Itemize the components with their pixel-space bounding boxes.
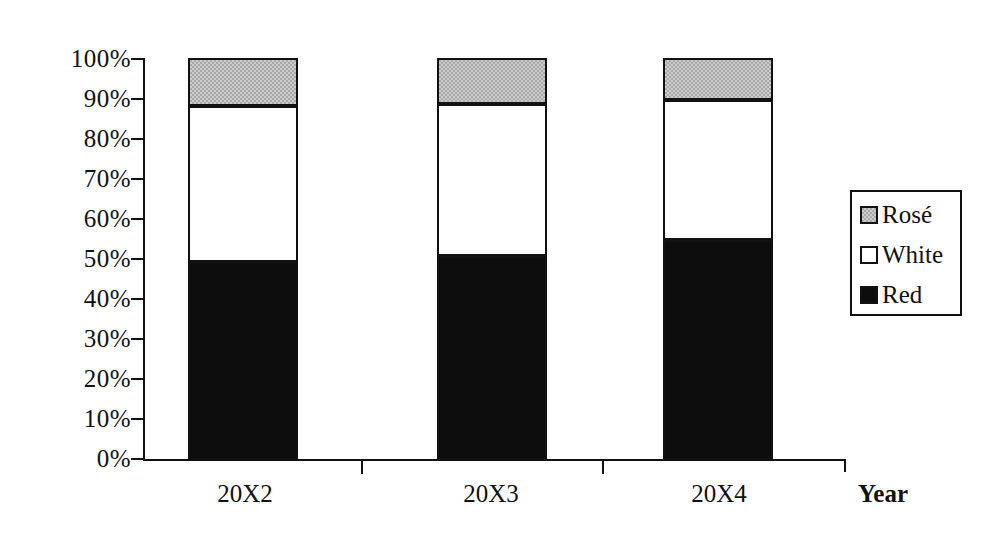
legend-label-red: Red — [882, 282, 922, 307]
y-tick-40 — [131, 298, 143, 300]
y-tick-0 — [131, 458, 143, 460]
x-axis-title: Year — [858, 480, 908, 508]
bar-20X4-segment-red[interactable] — [663, 240, 773, 460]
legend-swatch-white-icon — [860, 246, 878, 264]
y-tick-label-100: 100% — [45, 46, 131, 71]
bar-20X3-segment-red[interactable] — [437, 256, 547, 460]
y-tick-90 — [131, 98, 143, 100]
bar-20X4-segment-rose[interactable] — [663, 58, 773, 100]
chart-legend: Rosé White Red — [850, 190, 962, 316]
y-tick-label-50: 50% — [45, 246, 131, 271]
y-tick-50 — [131, 258, 143, 260]
bar-20X3-segment-white[interactable] — [437, 104, 547, 256]
x-axis-right-cap — [844, 459, 846, 472]
legend-label-white: White — [882, 242, 943, 267]
y-tick-label-10: 10% — [45, 406, 131, 431]
bar-20X2-segment-rose[interactable] — [188, 58, 298, 106]
legend-item-red[interactable]: Red — [860, 282, 922, 307]
x-tick-1 — [361, 461, 363, 474]
y-tick-label-20: 20% — [45, 366, 131, 391]
y-tick-30 — [131, 338, 143, 340]
stacked-bar-chart: 100% 90% 80% 70% 60% 50% 40% 30% 20% 10%… — [0, 0, 1008, 533]
y-tick-label-60: 60% — [45, 206, 131, 231]
y-tick-label-80: 80% — [45, 126, 131, 151]
bar-20X2-segment-red[interactable] — [188, 262, 298, 460]
x-tick-2 — [602, 461, 604, 474]
bar-20X2-segment-white[interactable] — [188, 106, 298, 262]
x-tick-label-20X2: 20X2 — [155, 480, 335, 508]
y-tick-60 — [131, 218, 143, 220]
y-tick-label-30: 30% — [45, 326, 131, 351]
y-tick-label-70: 70% — [45, 166, 131, 191]
y-tick-20 — [131, 378, 143, 380]
legend-swatch-red-icon — [860, 286, 878, 304]
legend-item-rose[interactable]: Rosé — [860, 202, 932, 227]
y-axis-labels: 100% 90% 80% 70% 60% 50% 40% 30% 20% 10%… — [33, 0, 131, 533]
y-tick-label-90: 90% — [45, 86, 131, 111]
plot-area — [143, 58, 845, 460]
legend-item-white[interactable]: White — [860, 242, 943, 267]
legend-swatch-rose-icon — [860, 206, 878, 224]
legend-label-rose: Rosé — [882, 202, 932, 227]
y-tick-label-40: 40% — [45, 286, 131, 311]
y-tick-80 — [131, 138, 143, 140]
y-tick-10 — [131, 418, 143, 420]
bar-20X3-segment-rose[interactable] — [437, 58, 547, 104]
x-tick-label-20X3: 20X3 — [401, 480, 581, 508]
x-tick-label-20X4: 20X4 — [629, 480, 809, 508]
x-axis-line — [143, 459, 846, 461]
y-tick-label-0: 0% — [45, 446, 131, 471]
bar-20X4-segment-white[interactable] — [663, 100, 773, 240]
y-tick-70 — [131, 178, 143, 180]
